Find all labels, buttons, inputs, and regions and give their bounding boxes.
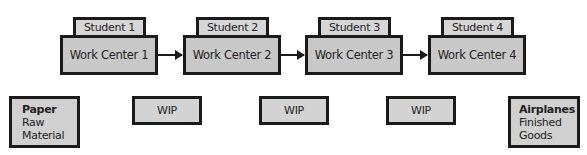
finished-goods-title: Airplanes	[519, 103, 575, 116]
wip-box-3: WIP	[386, 96, 456, 125]
raw-material-line2: Material	[22, 129, 64, 142]
arrow-right-icon	[158, 54, 182, 56]
raw-material-line1: Raw	[22, 116, 44, 129]
arrow-right-icon	[281, 54, 304, 56]
arrow-right-icon	[403, 54, 427, 56]
work-center-3-box: Work Center 3	[305, 35, 403, 75]
finished-goods-line1: Finished	[519, 116, 562, 129]
raw-material-title: Paper	[22, 103, 56, 116]
work-center-4-box: Work Center 4	[428, 35, 526, 75]
finished-goods-line2: Goods	[519, 129, 552, 142]
wip-box-2: WIP	[259, 96, 329, 125]
finished-goods-box: Airplanes Finished Goods	[508, 96, 580, 148]
work-center-1-box: Work Center 1	[60, 35, 158, 75]
wip-box-1: WIP	[132, 96, 202, 125]
work-center-2-box: Work Center 2	[183, 35, 281, 75]
raw-material-box: Paper Raw Material	[9, 96, 80, 148]
